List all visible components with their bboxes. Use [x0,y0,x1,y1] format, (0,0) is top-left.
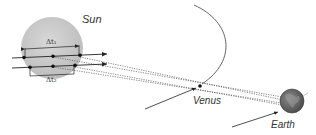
earth-line-extension [303,93,308,96]
earth-label: Earth [271,119,295,130]
venus-label: Venus [193,95,221,106]
delta-t2-label: Δt₂ [46,76,57,84]
transit-diagram [0,0,316,135]
venus-point [198,84,202,88]
delta-t1-label: Δt₁ [46,38,57,46]
venus-pointer [145,88,196,109]
sun-label: Sun [82,13,102,25]
venus-orbit [194,5,226,84]
